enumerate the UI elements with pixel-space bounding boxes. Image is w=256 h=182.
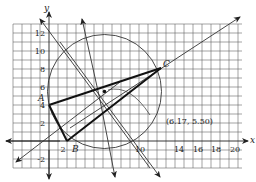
svg-text:20: 20 (230, 145, 240, 154)
svg-text:14: 14 (174, 145, 184, 154)
geometry-figure: 12 10 8 6 4 2 -2 2 10 14 16 18 20 x y A … (0, 0, 256, 182)
svg-text:10: 10 (135, 145, 145, 154)
circumcenter-label: (6.17, 5.50) (166, 117, 213, 126)
y-axis-label: y (43, 3, 50, 13)
circumcenter-leader (108, 89, 150, 115)
svg-text:2: 2 (40, 119, 45, 128)
figure-canvas: 12 10 8 6 4 2 -2 2 10 14 16 18 20 x y A … (0, 0, 256, 182)
point-a-label: A (37, 93, 45, 103)
svg-text:-2: -2 (37, 155, 45, 164)
perpendicular-bisectors (16, 17, 240, 177)
point-c-label: C (163, 59, 170, 69)
svg-text:8: 8 (40, 65, 45, 74)
x-tick-labels: 2 10 14 16 18 20 (60, 145, 240, 154)
x-axis-label: x (250, 135, 255, 145)
svg-text:12: 12 (35, 29, 45, 38)
circumcenter-point (103, 90, 107, 94)
svg-text:6: 6 (40, 83, 45, 92)
side-ca (49, 68, 161, 105)
svg-text:18: 18 (211, 145, 221, 154)
point-b-label: B (71, 144, 79, 154)
svg-text:16: 16 (193, 145, 203, 154)
bisector-ab (40, 19, 150, 168)
triangle-abc (49, 68, 161, 141)
svg-text:10: 10 (35, 47, 45, 56)
svg-text:2: 2 (60, 145, 65, 154)
